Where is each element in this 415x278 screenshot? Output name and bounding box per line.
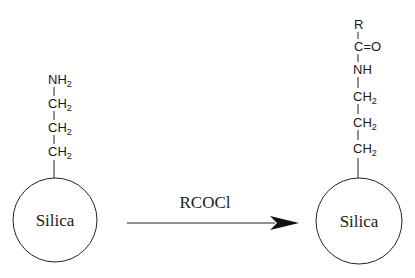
product-atom-r: R <box>354 17 363 32</box>
reactant-atom-nh2: NH2 <box>48 72 72 89</box>
silica-label-right: Silica <box>340 212 379 231</box>
product-atom-ch2-2: CH2 <box>353 115 377 132</box>
reactant-atom-ch2-1: CH2 <box>48 96 72 113</box>
reactant-structure: NH2 CH2 CH2 CH2 Silica <box>13 72 97 262</box>
product-structure: R C=O NH CH2 CH2 CH2 Silica <box>316 17 402 264</box>
product-atom-ch2-1: CH2 <box>353 89 377 106</box>
reaction-diagram: NH2 CH2 CH2 CH2 Silica RCOCl R C=O NH CH… <box>0 0 415 278</box>
reagent-label: RCOCl <box>179 193 230 212</box>
silica-label-left: Silica <box>36 211 75 230</box>
reaction-arrow-group: RCOCl <box>127 193 299 230</box>
product-atom-carbonyl: C=O <box>354 39 381 54</box>
product-atom-ch2-3: CH2 <box>353 141 377 158</box>
reactant-atom-ch2-2: CH2 <box>48 120 72 137</box>
product-atom-nh: NH <box>353 62 372 77</box>
reactant-atom-ch2-3: CH2 <box>48 144 72 161</box>
